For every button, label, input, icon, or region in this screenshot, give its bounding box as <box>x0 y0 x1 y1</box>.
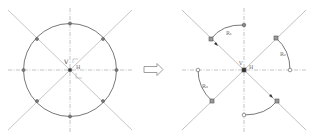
label-h: H <box>76 64 81 70</box>
point-bottom-left <box>35 99 38 102</box>
label-v: V <box>238 60 243 66</box>
point-left <box>22 68 25 71</box>
transform-arrow-icon <box>144 64 163 76</box>
label-h: H <box>249 64 254 70</box>
point-top <box>68 22 71 25</box>
label-v: V <box>63 58 69 65</box>
left-panel: V H <box>8 8 132 132</box>
point-right <box>115 68 118 71</box>
angle-mark-v <box>73 59 78 63</box>
arc-r4 <box>244 101 277 115</box>
label-r1: R₁ <box>226 30 232 36</box>
diagram-canvas: V H R₁ R₂ R₃ <box>0 0 314 136</box>
arc-points <box>196 23 292 117</box>
label-r2: R₂ <box>280 51 286 57</box>
point-top-right <box>101 37 104 40</box>
point-bottom-right <box>101 99 104 102</box>
point-top-left <box>35 37 38 40</box>
angle-mark-h <box>76 73 82 78</box>
point-center <box>68 68 72 72</box>
right-panel: R₁ R₂ R₃ V H <box>182 8 306 132</box>
label-r3: R₃ <box>202 83 208 89</box>
point-bottom <box>68 115 71 118</box>
circle-points <box>22 22 118 118</box>
